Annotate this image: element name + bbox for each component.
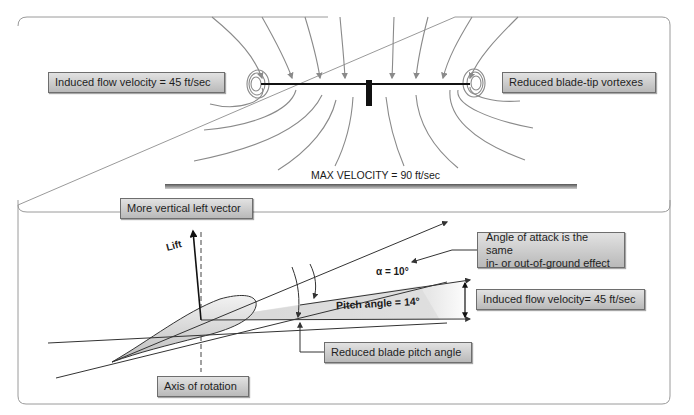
vertical-vector-label: More vertical left vector: [120, 198, 253, 219]
alpha-arc: [310, 264, 316, 298]
airfoil-shape: [112, 295, 256, 362]
reduced-pitch-text: Reduced blade pitch angle: [331, 346, 461, 359]
induced-flow-text: Induced flow velocity = 45 ft/sec: [55, 76, 211, 89]
lift-vector: [193, 231, 201, 320]
reduced-pitch-label: Reduced blade pitch angle: [324, 342, 472, 363]
flow-lines-outgoing: [194, 87, 533, 170]
angle-of-attack-label: Angle of attack is the same in- or out-o…: [477, 232, 625, 268]
alpha-label: α = 10°: [376, 266, 409, 277]
ground-plane: [165, 184, 577, 189]
axis-of-rotation-text: Axis of rotation: [164, 380, 237, 393]
blade-tip-vortexes-label: Reduced blade-tip vortexes: [502, 72, 656, 93]
max-velocity-label: MAX VELOCITY = 90 ft/sec: [311, 169, 440, 181]
aoa-leader: [412, 250, 477, 262]
relative-wind-line: [48, 323, 447, 343]
axis-of-rotation-label: Axis of rotation: [157, 376, 249, 397]
induced-flow-bottom-text: Induced flow velocity= 45 ft/sec: [483, 293, 636, 306]
induced-flow-label-top: Induced flow velocity = 45 ft/sec: [48, 72, 225, 93]
rotor-mast: [366, 80, 372, 106]
aoa-text: Angle of attack is the same in- or out-o…: [486, 231, 616, 270]
vertical-vector-text: More vertical left vector: [127, 202, 241, 215]
induced-flow-label-bottom: Induced flow velocity= 45 ft/sec: [476, 289, 645, 310]
outer-frame-border: [18, 17, 670, 212]
blade-tip-vortexes-text: Reduced blade-tip vortexes: [509, 76, 643, 89]
